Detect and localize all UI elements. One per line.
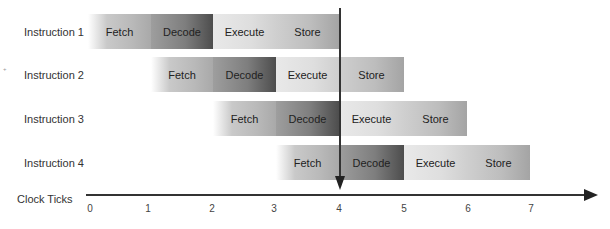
- tick-label: 7: [528, 203, 534, 214]
- row-label-instruction-2: Instruction 2: [24, 68, 84, 82]
- stage-store: Store: [404, 101, 467, 136]
- stage-decode: Decode: [339, 145, 404, 180]
- stage-fetch: Fetch: [151, 57, 213, 92]
- tick-label: 5: [401, 203, 407, 214]
- stage-store: Store: [467, 145, 530, 180]
- stray-mark: +: [3, 66, 7, 72]
- tick-label: 6: [465, 203, 471, 214]
- tick-label: 1: [145, 203, 151, 214]
- stage-store: Store: [339, 57, 404, 92]
- stage-decode: Decode: [213, 57, 276, 92]
- stage-store: Store: [276, 14, 339, 49]
- stage-decode: Decode: [151, 14, 213, 49]
- row-label-instruction-3: Instruction 3: [24, 112, 84, 126]
- stage-decode: Decode: [276, 101, 339, 136]
- stage-fetch: Fetch: [213, 101, 276, 136]
- axis-label: Clock Ticks: [17, 193, 73, 205]
- tick-label: 3: [271, 203, 277, 214]
- tick-label: 0: [87, 203, 93, 214]
- tick-label: 2: [209, 203, 215, 214]
- stage-execute: Execute: [339, 101, 404, 136]
- stage-execute: Execute: [213, 14, 276, 49]
- stage-execute: Execute: [404, 145, 467, 180]
- stage-execute: Execute: [276, 57, 339, 92]
- right-arrow-icon: [584, 189, 598, 201]
- current-tick-marker-line: [339, 8, 341, 180]
- stage-fetch: Fetch: [276, 145, 339, 180]
- down-arrow-icon: [335, 176, 345, 190]
- time-axis: [86, 194, 586, 196]
- row-label-instruction-1: Instruction 1: [24, 25, 84, 39]
- tick-label: 4: [336, 203, 342, 214]
- stage-fetch: Fetch: [88, 14, 151, 49]
- row-label-instruction-4: Instruction 4: [24, 156, 84, 170]
